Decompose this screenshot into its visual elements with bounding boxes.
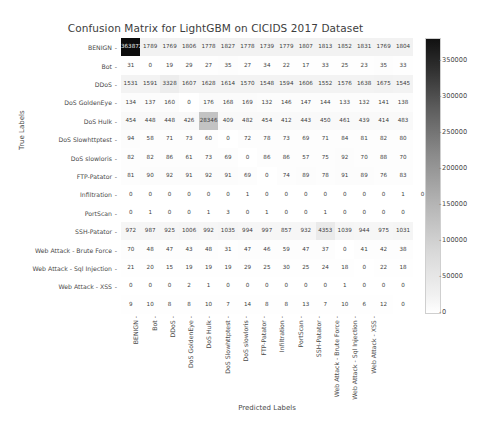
heatmap-cell: 22 [374,259,393,277]
heatmap-cell: 69 [218,148,237,166]
heatmap-cell: 29 [179,56,198,74]
colorbar-tick-100000: -100000 [439,236,467,244]
heatmap-cell: 35 [374,56,393,74]
heatmap-cell: 0 [140,277,159,295]
heatmap-cell: 1739 [257,38,276,56]
heatmap-cell: 31 [218,240,237,258]
x-tick-dos-slowloris: DoS slowloris - [242,316,249,361]
heatmap-cell: 1769 [374,38,393,56]
x-tick-dos-goldeneye: DoS GoldenEye - [187,316,194,368]
y-axis-tick-labels: BENIGN-Bot-DDoS-DoS GoldenEye-DoS Hulk-D… [0,38,119,314]
y-tick-ftp-patator: FTP-Patator [77,173,112,180]
heatmap-grid: 3638721789176918061778182717781739177918… [121,38,432,314]
heatmap-cell: 412 [277,112,296,130]
heatmap-cell: 71 [316,130,335,148]
heatmap-cell: 1807 [296,38,315,56]
heatmap-cell: 7 [218,295,237,314]
heatmap-cell: 944 [354,222,373,240]
heatmap-cell: 0 [218,130,237,148]
heatmap-cell: 0 [374,185,393,203]
heatmap-cell: 1 [199,277,218,295]
heatmap-cell: 0 [238,148,257,166]
heatmap-cell: 76 [374,167,393,185]
heatmap-cell: 454 [257,112,276,130]
x-tick-bot: Bot - [151,316,158,331]
heatmap-row: 1341371600176168169132146147144133132141… [121,93,432,111]
y-tick-mark: - [115,191,117,198]
heatmap-cell: 1614 [218,75,237,93]
heatmap-cell: 33 [316,56,335,74]
heatmap-cell: 19 [179,259,198,277]
heatmap-cell: 1813 [316,38,335,56]
heatmap-cell: 932 [296,222,315,240]
heatmap-cell: 84 [335,130,354,148]
heatmap-cell: 132 [257,93,276,111]
heatmap-cell: 27 [199,56,218,74]
heatmap-cell: 0 [393,295,412,314]
colorbar-tick-label: 150000 [442,200,467,208]
heatmap-cell: 1789 [140,38,159,56]
heatmap-cell: 409 [218,112,237,130]
colorbar-tick-label: 100000 [442,236,467,244]
heatmap-cell: 89 [354,167,373,185]
colorbar-tick-label: 200000 [442,164,467,172]
heatmap-cell: 19 [199,259,218,277]
y-tick-mark: - [115,283,117,290]
heatmap-cell: 1548 [257,75,276,93]
heatmap-row: 9729879251006992103599499785793243531039… [121,222,432,240]
heatmap-cell: 18 [335,259,354,277]
colorbar-tick-label: 0 [442,308,446,316]
heatmap-cell: 1606 [296,75,315,93]
heatmap-row: 3638721789176918061778182717781739177918… [121,38,432,56]
heatmap-cell: 22 [277,56,296,74]
heatmap-cell: 0 [179,93,198,111]
heatmap-cell: 86 [160,148,179,166]
heatmap-cell: 28346 [199,112,218,130]
heatmap-cell: 19 [160,56,179,74]
heatmap-cell: 73 [179,130,198,148]
colorbar-tick-label: 50000 [442,272,463,280]
heatmap-cell: 33 [393,56,412,74]
heatmap-cell: 43 [179,240,198,258]
heatmap-cell: 448 [160,112,179,130]
heatmap-cell: 94 [121,130,140,148]
heatmap-cell: 1006 [179,222,198,240]
heatmap-cell: 0 [296,204,315,222]
heatmap-cell: 92 [160,167,179,185]
heatmap-cell: 1769 [160,38,179,56]
heatmap-cell: 1 [257,204,276,222]
x-tick-dos-slowhttptest: DoS Slowhttptest - [224,316,231,374]
heatmap-cell: 91 [179,167,198,185]
heatmap-cell: 144 [316,93,335,111]
heatmap-cell: 992 [199,222,218,240]
heatmap-cell: 1545 [393,75,412,93]
heatmap-cell: 0 [121,185,140,203]
heatmap-cell: 48 [140,240,159,258]
y-tick-mark: - [115,81,117,88]
heatmap-cell: 0 [160,204,179,222]
heatmap-cell: 13 [296,295,315,314]
heatmap-cell: 25 [335,56,354,74]
heatmap-cell: 1570 [238,75,257,93]
heatmap-cell: 1035 [218,222,237,240]
heatmap-cell: 450 [316,112,335,130]
heatmap-cell: 0 [335,185,354,203]
heatmap-row: 31019292735273422173325233533 [121,56,432,74]
heatmap-cell: 8 [179,295,198,314]
heatmap-row: 21201519191929253025241802218 [121,259,432,277]
y-tick-dos-slowhttptest: DoS Slowhttptest [58,136,112,143]
heatmap-row: 000210000001000 [121,277,432,295]
heatmap-cell: 133 [335,93,354,111]
heatmap-cell: 0 [316,277,335,295]
heatmap-cell: 7 [316,295,335,314]
heatmap-cell: 57 [296,148,315,166]
heatmap-cell: 454 [121,112,140,130]
y-tick-mark: - [115,154,117,161]
heatmap-cell: 8 [277,295,296,314]
heatmap-cell: 8 [160,295,179,314]
y-tick-mark: - [115,44,117,51]
heatmap-cell: 3 [218,204,237,222]
heatmap-cell: 60 [199,130,218,148]
heatmap-cell: 1594 [277,75,296,93]
heatmap-row: 94587173600727873697184818280 [121,130,432,148]
